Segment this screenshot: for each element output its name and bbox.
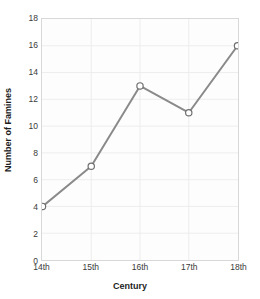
y-tick-label: 8	[16, 149, 38, 158]
data-point-marker	[88, 163, 94, 169]
y-tick-label: 6	[16, 176, 38, 185]
x-tick-label: 16th	[132, 263, 149, 272]
y-tick-label: 10	[16, 122, 38, 131]
x-tick-label: 17th	[181, 263, 198, 272]
data-point-marker	[42, 203, 46, 209]
x-tick-label: 15th	[82, 263, 99, 272]
plot-area	[41, 18, 239, 261]
y-tick-label: 12	[16, 95, 38, 104]
y-tick-label: 2	[16, 230, 38, 239]
y-tick-label: 18	[16, 14, 38, 23]
y-tick-label: 4	[16, 203, 38, 212]
y-axis-title-label: Number of Famines	[3, 88, 13, 172]
data-point-marker	[137, 83, 143, 89]
data-series	[42, 19, 238, 260]
famines-line-chart: Number of Famines 024681012141618 14th15…	[0, 0, 260, 299]
y-tick-label: 16	[16, 41, 38, 50]
x-tick-label: 14th	[33, 263, 50, 272]
series-line	[42, 46, 237, 207]
x-tick-label: 18th	[230, 263, 247, 272]
data-point-marker	[186, 110, 192, 116]
y-tick-label: 14	[16, 68, 38, 77]
x-axis-tick-labels: 14th15th16th17th18th	[41, 263, 239, 277]
y-axis-tick-labels: 024681012141618	[14, 0, 38, 299]
x-axis-title: Century	[0, 281, 260, 291]
data-point-marker	[234, 43, 238, 49]
